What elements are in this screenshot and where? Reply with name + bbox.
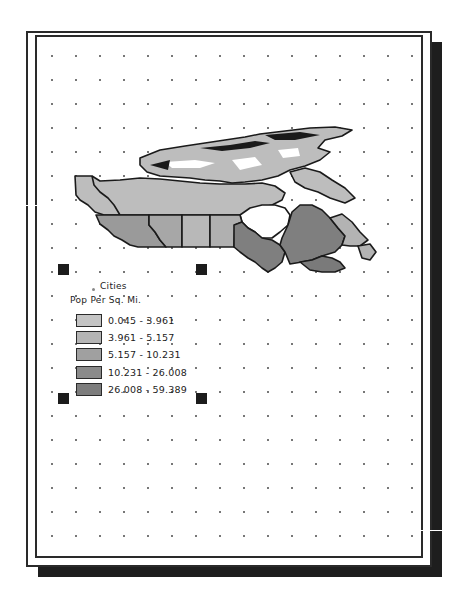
legend-item-label: 5.157 - 10.231: [108, 349, 181, 360]
selection-handle-bottom-left[interactable]: [58, 393, 69, 404]
legend-swatch: [76, 348, 102, 361]
cities-symbol-icon: [92, 288, 95, 291]
selection-handle-top-right[interactable]: [196, 264, 207, 275]
legend-item-label: 26.008 - 59.389: [108, 384, 187, 395]
selection-handle-bottom-right[interactable]: [196, 393, 207, 404]
legend-swatch: [76, 331, 102, 344]
baffin-island: [290, 168, 355, 203]
legend-item: 3.961 - 5.157: [76, 330, 174, 344]
legend-swatch: [76, 366, 102, 379]
newfoundland: [358, 244, 376, 260]
legend-item: 26.008 - 59.389: [76, 382, 187, 396]
legend-title: Pop Per Sq. Mi.: [70, 295, 141, 305]
legend-item-label: 10.231 - 26.008: [108, 367, 187, 378]
legend-item: 0.045 - 3.961: [76, 313, 174, 327]
legend-swatch: [76, 314, 102, 327]
legend-cities-label: Cities: [100, 281, 127, 291]
saskatchewan: [182, 215, 210, 247]
legend-item: 10.231 - 26.008: [76, 365, 187, 379]
selection-handle-top-left[interactable]: [58, 264, 69, 275]
canada-map[interactable]: [0, 0, 459, 603]
legend-item-label: 0.045 - 3.961: [108, 315, 174, 326]
legend-item: 5.157 - 10.231: [76, 347, 181, 361]
legend-item-label: 3.961 - 5.157: [108, 332, 174, 343]
legend-swatch: [76, 383, 102, 396]
